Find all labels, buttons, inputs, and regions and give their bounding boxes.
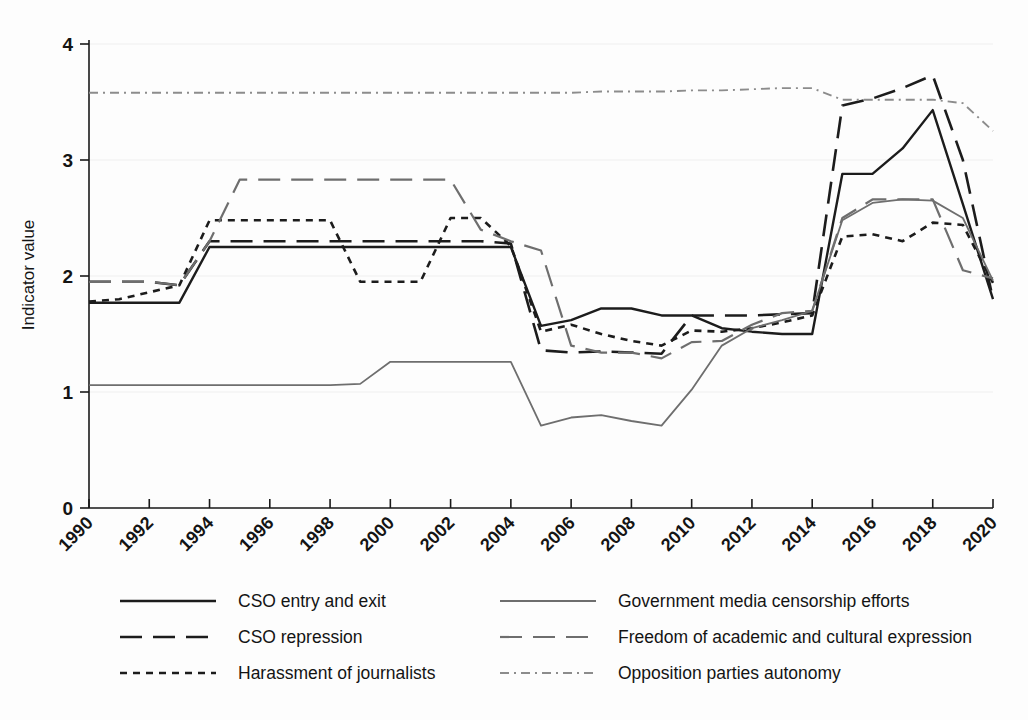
axis-lines: [89, 40, 993, 508]
x-tick-label: 1994: [175, 513, 217, 555]
x-tick-label: 1998: [295, 513, 337, 555]
legend-label-1: CSO repression: [238, 627, 363, 647]
legend-label-0: CSO entry and exit: [238, 591, 386, 611]
legend-label-3: Government media censorship efforts: [618, 591, 910, 611]
y-axis-ticks: 01234: [62, 34, 89, 519]
legend-label-5: Opposition parties autonomy: [618, 663, 841, 683]
legend-label-2: Harassment of journalists: [238, 663, 436, 683]
x-tick-label: 2016: [838, 513, 880, 555]
y-tick-label: 2: [62, 266, 73, 287]
x-tick-label: 1996: [235, 513, 277, 555]
chart-legend: CSO entry and exitCSO repressionHarassme…: [120, 591, 972, 683]
x-tick-label: 2006: [537, 513, 579, 555]
x-tick-label: 2008: [597, 513, 639, 555]
y-tick-label: 1: [62, 382, 73, 403]
x-tick-label: 2012: [717, 513, 759, 555]
series-line-1: [89, 75, 993, 353]
x-tick-label: 2018: [898, 513, 940, 555]
x-tick-label: 2014: [778, 513, 820, 555]
x-tick-label: 2002: [416, 513, 458, 555]
x-tick-label: 2000: [356, 513, 398, 555]
chart-figure: 01234 1990199219941996199820002002200420…: [0, 0, 1028, 720]
legend-label-4: Freedom of academic and cultural express…: [618, 627, 972, 647]
x-tick-label: 1992: [115, 513, 157, 555]
y-tick-label: 3: [62, 150, 73, 171]
gridlines: [89, 44, 993, 508]
data-series-group: [89, 75, 993, 425]
x-tick-label: 2010: [657, 513, 699, 555]
y-axis-title: Indicator value: [19, 220, 38, 331]
x-tick-label: 2004: [476, 513, 518, 555]
line-chart: 01234 1990199219941996199820002002200420…: [0, 0, 1028, 720]
series-line-5: [89, 88, 993, 131]
x-tick-label: 1990: [54, 513, 96, 555]
x-tick-label: 2020: [958, 513, 1000, 555]
series-line-4: [89, 180, 993, 359]
y-tick-label: 0: [62, 498, 73, 519]
y-tick-label: 4: [62, 34, 73, 55]
series-line-0: [89, 110, 993, 334]
